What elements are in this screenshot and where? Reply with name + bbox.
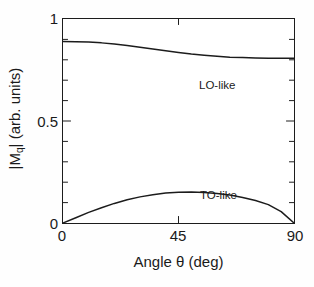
annotation-to-like: TO-like [200, 189, 237, 201]
x-tick-label-90: 90 [279, 228, 311, 243]
x-axis-title: Angle θ (deg) [62, 253, 295, 270]
y-axis-minor-ticks [63, 39, 71, 202]
annotation-lo-like: LO-like [199, 79, 235, 91]
series-line-lo-like [63, 41, 294, 58]
y-axis-minor-ticks-right [286, 39, 294, 202]
y-tick-label-0.5: 0.5 [37, 114, 58, 129]
y-axis-title-base: |M [6, 153, 23, 169]
chart-figure: LO-like TO-like 1 0.5 0 0 45 90 Angle θ … [0, 0, 314, 287]
x-tick-label-45: 45 [162, 228, 194, 243]
x-axis-title-text: Angle θ (deg) [133, 253, 223, 270]
y-axis-title: |Mq| (arb. units) [6, 16, 23, 222]
x-tick-label-0: 0 [46, 228, 78, 243]
y-axis-title-tail: | (arb. units) [6, 68, 23, 148]
y-tick-label-1: 1 [50, 11, 58, 26]
plot-canvas [63, 19, 294, 223]
y-axis-title-subscript: q [14, 147, 25, 153]
plot-frame: LO-like TO-like [62, 18, 295, 224]
